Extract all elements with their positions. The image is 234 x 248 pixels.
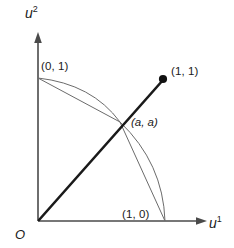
- y-axis-label-base: u: [25, 5, 33, 21]
- chord-upper-left: [38, 78, 120, 122]
- x-axis-arrowhead: [196, 217, 207, 225]
- point-label-a-a: (a, a): [131, 117, 158, 129]
- point-label-1-0: (1, 0): [122, 209, 149, 221]
- diagram-canvas: [0, 0, 234, 248]
- origin-label: O: [15, 228, 25, 241]
- y-axis-label-superscript: 2: [33, 4, 38, 14]
- point-label-1-1: (1, 1): [171, 66, 198, 78]
- point-label-0-1: (0, 1): [41, 61, 68, 73]
- x-axis-label-base: u: [209, 215, 217, 231]
- diagonal-ray: [39, 80, 163, 220]
- point-marker-1-1: [159, 75, 167, 83]
- figure-container: u2 u1 O (0, 1) (1, 1) (a, a) (1, 0): [0, 0, 234, 248]
- y-axis-arrowhead: [34, 32, 42, 43]
- chord-lower-right: [120, 122, 165, 221]
- x-axis-label-superscript: 1: [217, 214, 222, 224]
- y-axis-label: u2: [25, 6, 38, 20]
- x-axis-label: u1: [209, 216, 222, 230]
